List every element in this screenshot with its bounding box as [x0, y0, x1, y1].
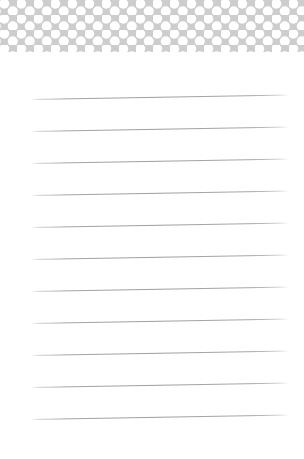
- rule-line: [30, 190, 290, 196]
- rule-line: [30, 254, 290, 260]
- notepad-page: [0, 0, 304, 459]
- rule-line: [30, 414, 290, 420]
- rule-line: [30, 126, 290, 132]
- polka-dot-pattern-svg: [0, 0, 304, 52]
- rule-line: [30, 318, 290, 324]
- rule-line: [30, 222, 290, 228]
- rule-line: [30, 286, 290, 292]
- polka-dot-header-band: [0, 0, 304, 52]
- rule-line: [30, 382, 290, 388]
- rule-line: [30, 94, 290, 100]
- rule-line: [30, 350, 290, 356]
- ruled-writing-area[interactable]: [0, 52, 304, 459]
- rule-line: [30, 158, 290, 164]
